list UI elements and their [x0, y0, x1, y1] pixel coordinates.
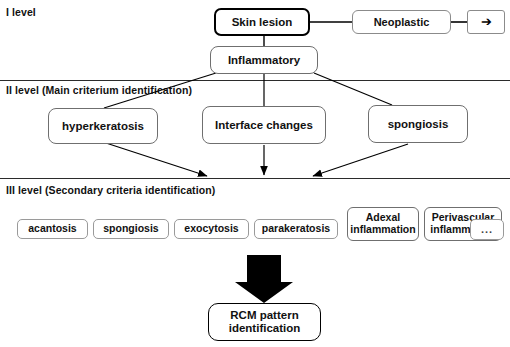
node-spongiosis-level3-label: spongiosis [103, 223, 158, 235]
node-interface-changes[interactable]: Interface changes [202, 106, 326, 144]
node-neoplastic-label: Neoplastic [374, 16, 430, 28]
node-acantosis-label: acantosis [28, 223, 76, 235]
node-hyperkeratosis-label: hyperkeratosis [62, 120, 144, 133]
level-3-label: III level (Secondary criteria identifica… [6, 184, 215, 196]
level-1-label: I level [6, 6, 36, 18]
node-rcm-pattern-line1: RCM pattern [230, 309, 298, 322]
rcm-diagnostic-flow-diagram: I level II level (Main criterium identif… [0, 0, 510, 347]
level-2-label: II level (Main criterium identification) [6, 84, 192, 96]
node-adexal-inflammation-line2: inflammation [350, 224, 415, 236]
divider-level-1-2 [0, 80, 510, 81]
node-spongiosis-level2-label: spongiosis [388, 118, 449, 131]
right-arrow-glyph-icon: ➔ [481, 15, 492, 30]
node-parakeratosis[interactable]: parakeratosis [254, 219, 338, 239]
node-exocytosis-label: exocytosis [184, 223, 238, 235]
node-spongiosis-level3[interactable]: spongiosis [93, 219, 169, 239]
node-inflammatory[interactable]: Inflammatory [210, 46, 318, 74]
node-spongiosis-level2[interactable]: spongiosis [368, 105, 468, 143]
node-parakeratosis-label: parakeratosis [262, 223, 330, 235]
node-skin-lesion[interactable]: Skin lesion [214, 8, 310, 36]
node-more-criteria-ellipsis[interactable]: ... [470, 219, 504, 240]
node-more-criteria-ellipsis-label: ... [481, 223, 493, 235]
node-exocytosis[interactable]: exocytosis [174, 219, 249, 239]
node-rcm-pattern-line2: identification [229, 322, 301, 335]
divider-level-2-3 [0, 178, 510, 179]
node-rcm-pattern-identification[interactable]: RCM pattern identification [208, 303, 321, 341]
node-neoplastic[interactable]: Neoplastic [352, 10, 451, 34]
node-adexal-inflammation[interactable]: Adexal inflammation [347, 207, 419, 241]
node-acantosis[interactable]: acantosis [17, 219, 88, 239]
node-hyperkeratosis[interactable]: hyperkeratosis [48, 108, 158, 144]
node-neoplastic-continuation[interactable]: ➔ [467, 10, 505, 34]
node-inflammatory-label: Inflammatory [228, 54, 300, 67]
node-skin-lesion-label: Skin lesion [232, 16, 293, 29]
node-interface-changes-label: Interface changes [215, 119, 313, 132]
